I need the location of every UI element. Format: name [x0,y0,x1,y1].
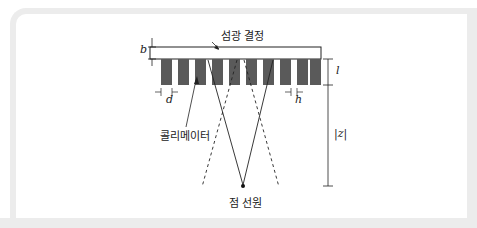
point-source-dot [241,184,245,188]
d-label: d [166,93,173,106]
collimator-septa [161,59,321,85]
crystal-label: 섬광 결정 [221,27,265,43]
diagram-frame: 섬광 결정 b d h 콜리메이터 l |z| 점 선원 [0,0,477,228]
l-label: l [336,64,340,77]
crystal-plate [150,47,321,59]
b-label: b [140,43,147,56]
collimator-label: 콜리메이터 [160,127,210,143]
z-label: |z| [334,127,347,140]
point-source-label: 점 선원 [229,194,263,210]
h-label: h [295,93,302,106]
